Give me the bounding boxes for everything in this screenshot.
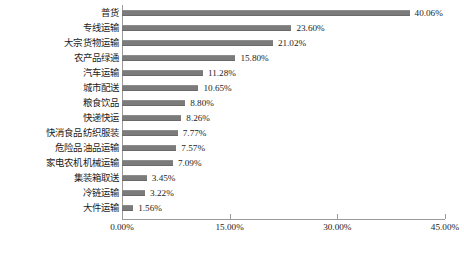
bar-track: 7.77% [122, 126, 449, 141]
bar-track: 40.06% [122, 6, 449, 21]
bar-track: 1.56% [122, 200, 449, 215]
bar [122, 205, 133, 211]
category-label: 快递快运 [0, 113, 119, 123]
category-label: 家电农机机械运输 [0, 158, 119, 168]
bar-value-label: 1.56% [138, 203, 162, 213]
bar-row: 汽车运输11.28% [0, 66, 449, 81]
bar-value-label: 23.60% [296, 23, 324, 33]
bar-track: 3.22% [122, 185, 449, 200]
bar-track: 11.28% [122, 66, 449, 81]
category-label: 大宗货物运输 [0, 38, 119, 48]
bar-row: 危险品油品运输7.57% [0, 140, 449, 155]
bar-value-label: 10.65% [203, 83, 231, 93]
x-axis-tick [337, 214, 338, 219]
category-label: 汽车运输 [0, 68, 119, 78]
bar-value-label: 21.02% [278, 38, 306, 48]
x-axis-tick [230, 214, 231, 219]
category-label: 冷链运输 [0, 188, 119, 198]
category-label: 快消食品纺织服装 [0, 128, 119, 138]
bar [122, 130, 178, 136]
bar-track: 21.02% [122, 36, 449, 51]
bar-value-label: 7.57% [181, 143, 205, 153]
x-axis-line [122, 219, 445, 220]
bar [122, 100, 185, 106]
bar-track: 15.80% [122, 51, 449, 66]
bar-row: 家电农机机械运输7.09% [0, 155, 449, 170]
bar-row: 城市配送10.65% [0, 81, 449, 96]
bar [122, 85, 198, 91]
category-label: 城市配送 [0, 83, 119, 93]
bar-row: 集装箱取送3.45% [0, 170, 449, 185]
bar-row: 大宗货物运输21.02% [0, 36, 449, 51]
bar-track: 8.26% [122, 111, 449, 126]
bar [122, 70, 203, 76]
bar-row: 专线运输23.60% [0, 21, 449, 36]
bar-rows: 普货40.06%专线运输23.60%大宗货物运输21.02%农产品绿通15.80… [0, 6, 449, 215]
x-axis-tick-label: 0.00% [92, 222, 152, 233]
bar-row: 冷链运输3.22% [0, 185, 449, 200]
bar-row: 快递快运8.26% [0, 111, 449, 126]
bar [122, 40, 273, 46]
category-label: 普货 [0, 8, 119, 18]
bar-track: 8.80% [122, 96, 449, 111]
bar-track: 7.09% [122, 155, 449, 170]
category-label: 专线运输 [0, 23, 119, 33]
bar [122, 175, 147, 181]
bar-value-label: 3.45% [152, 173, 176, 183]
category-label: 大件运输 [0, 203, 119, 213]
bar-value-label: 7.09% [178, 158, 202, 168]
bar-row: 农产品绿通15.80% [0, 51, 449, 66]
bar-value-label: 8.26% [186, 113, 210, 123]
bar [122, 10, 410, 16]
bar-value-label: 7.77% [183, 128, 207, 138]
figure-caption [0, 245, 449, 254]
category-label: 农产品绿通 [0, 53, 119, 63]
x-axis-tick-label: 45.00% [415, 222, 464, 233]
bar-track: 23.60% [122, 21, 449, 36]
x-axis-tick [445, 214, 446, 219]
bar-row: 粮食饮品8.80% [0, 96, 449, 111]
bar [122, 145, 176, 151]
x-axis-tick-label: 15.00% [200, 222, 260, 233]
category-label: 粮食饮品 [0, 98, 119, 108]
x-axis-tick [122, 214, 123, 219]
bar [122, 115, 181, 121]
bar [122, 160, 173, 166]
bar-row: 大件运输1.56% [0, 200, 449, 215]
bar-value-label: 8.80% [190, 98, 214, 108]
bar-track: 10.65% [122, 81, 449, 96]
bar [122, 25, 291, 31]
category-label: 集装箱取送 [0, 173, 119, 183]
category-label: 危险品油品运输 [0, 143, 119, 153]
bar [122, 55, 235, 61]
bar-value-label: 40.06% [415, 8, 443, 18]
bar-chart-plot-area: 普货40.06%专线运输23.60%大宗货物运输21.02%农产品绿通15.80… [0, 0, 449, 222]
bar-value-label: 3.22% [150, 188, 174, 198]
bar-row: 普货40.06% [0, 6, 449, 21]
bar-row: 快消食品纺织服装7.77% [0, 126, 449, 141]
x-axis-tick-label: 30.00% [307, 222, 367, 233]
bar [122, 190, 145, 196]
bar-value-label: 11.28% [208, 68, 236, 78]
bar-value-label: 15.80% [240, 53, 268, 63]
bar-track: 7.57% [122, 140, 449, 155]
bar-track: 3.45% [122, 170, 449, 185]
